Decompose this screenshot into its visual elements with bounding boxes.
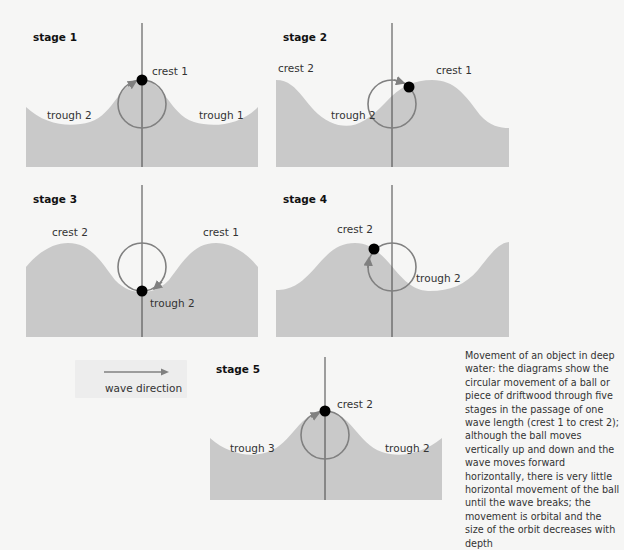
stage-4-ball — [369, 244, 380, 255]
stage-3-panel: stage 3 crest 2 crest 1 trough 2 — [26, 185, 258, 337]
stage-2-ball — [404, 82, 415, 93]
stage-5-label-trough-left: trough 3 — [230, 442, 275, 454]
wave-direction-label: wave direction — [105, 382, 182, 394]
stage-3-label-crest-left: crest 2 — [52, 226, 88, 238]
stage-4-label-trough: trough 2 — [416, 272, 461, 284]
stage-5-label-trough-right: trough 2 — [385, 442, 430, 454]
stage-5-label-crest: crest 2 — [337, 398, 373, 410]
stage-5-title: stage 5 — [216, 363, 260, 375]
stage-1-label-crest: crest 1 — [152, 65, 188, 77]
stage-2-label-crest-right: crest 1 — [436, 64, 472, 76]
stage-1-label-trough-right: trough 1 — [199, 109, 244, 121]
stage-4-panel: stage 4 crest 2 trough 2 — [276, 185, 509, 337]
stage-4-title: stage 4 — [283, 193, 327, 205]
stage-2-label-trough: trough 2 — [331, 109, 376, 121]
stage-5-water — [210, 411, 442, 500]
stage-1-ball — [137, 75, 148, 86]
stage-5-ball — [320, 406, 331, 417]
stage-1-title: stage 1 — [33, 31, 77, 43]
stage-2-panel: stage 2 crest 2 crest 1 trough 2 — [276, 23, 509, 167]
stage-2-label-crest-left: crest 2 — [278, 62, 314, 74]
stage-5-panel: stage 5 crest 2 trough 3 trough 2 — [210, 357, 442, 500]
stage-3-label-trough: trough 2 — [150, 297, 195, 309]
stage-3-title: stage 3 — [33, 193, 77, 205]
caption-text: Movement of an object in deep water: the… — [465, 349, 621, 550]
stage-3-ball — [137, 286, 148, 297]
wave-direction-legend: wave direction — [75, 360, 187, 398]
stage-4-label-crest: crest 2 — [337, 223, 373, 235]
stage-1-panel: stage 1 crest 1 trough 2 trough 1 — [26, 23, 258, 167]
stage-3-label-crest-right: crest 1 — [203, 226, 239, 238]
stage-4-direction-icon — [368, 258, 369, 268]
stage-2-title: stage 2 — [283, 31, 327, 43]
stage-1-label-trough-left: trough 2 — [47, 109, 92, 121]
